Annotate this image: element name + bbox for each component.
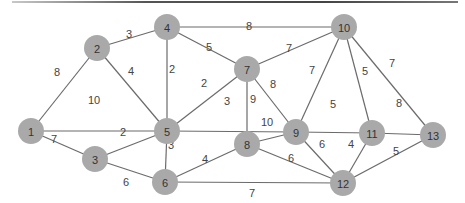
node-4: 4 (154, 14, 180, 40)
edge-1-2 (31, 48, 97, 131)
node-label: 11 (366, 128, 377, 140)
node-1: 1 (18, 118, 44, 144)
node-label: 9 (293, 127, 299, 139)
edge-weight-3-6: 6 (123, 176, 129, 188)
edge-weight-10-13: 7 (389, 57, 395, 69)
edge-9-10 (296, 27, 344, 132)
edge-weight-7-10: 7 (286, 42, 292, 54)
node-label: 12 (337, 178, 349, 190)
node-label: 2 (94, 43, 100, 55)
edge-2-5 (97, 48, 167, 131)
edge-weight-1-5: 10 (88, 94, 100, 106)
edge-weight-2-5: 4 (128, 65, 134, 77)
edge-weight-4-10: 8 (246, 20, 252, 32)
node-3: 3 (82, 146, 108, 172)
node-label: 3 (92, 154, 98, 166)
node-10: 10 (331, 14, 357, 40)
edge-weight-2-4: 3 (126, 28, 132, 40)
edge-8-12 (247, 144, 343, 183)
edge-7-10 (247, 27, 344, 69)
node-label: 7 (244, 64, 250, 76)
edge-weight-7-8: 9 (250, 93, 256, 105)
top-border-line (12, 1, 458, 3)
graph-diagram: 810734268522334778910675657845 123456789… (0, 0, 465, 203)
node-13: 13 (420, 122, 446, 148)
edge-weight-9-10: 7 (309, 64, 315, 76)
edge-weight-10-11: 5 (362, 65, 368, 77)
edge-weight-5-9: 3 (224, 95, 230, 107)
node-label: 10 (338, 22, 350, 34)
node-label: 6 (162, 177, 168, 189)
node-7: 7 (234, 56, 260, 82)
edge-weight-3-5: 2 (120, 126, 126, 138)
edge-weight-4-5: 2 (169, 63, 175, 75)
node-9: 9 (283, 119, 309, 145)
edge-weight-11-12: 4 (348, 138, 354, 150)
edge-weight-5-7: 2 (201, 77, 207, 89)
edge-weight-1-3: 7 (51, 133, 57, 145)
edge-weight-7-9: 8 (270, 78, 276, 90)
node-12: 12 (330, 170, 356, 196)
edge-5-9 (167, 131, 296, 132)
edge-10-11 (344, 27, 372, 133)
node-label: 4 (164, 22, 170, 34)
graph-canvas: 810734268522334778910675657845 123456789… (0, 0, 465, 203)
edge-weight-4-7: 5 (206, 41, 212, 53)
node-2: 2 (84, 35, 110, 61)
node-label: 5 (164, 126, 170, 138)
node-5: 5 (154, 118, 180, 144)
edge-6-12 (165, 182, 343, 183)
node-11: 11 (359, 120, 385, 146)
edge-weight-11-13: 8 (396, 97, 402, 109)
nodes-layer: 12345678910111213 (18, 14, 446, 196)
edge-weight-12-13: 5 (393, 145, 399, 157)
edge-weight-6-12: 7 (249, 187, 255, 199)
node-label: 13 (427, 130, 439, 142)
edge-10-13 (344, 27, 433, 135)
edge-weight-6-8: 4 (202, 153, 208, 165)
edge-weight-1-2: 8 (54, 66, 60, 78)
node-6: 6 (152, 169, 178, 195)
edge-weight-9-11: 5 (330, 98, 336, 110)
node-8: 8 (234, 131, 260, 157)
node-label: 1 (28, 126, 34, 138)
node-label: 8 (244, 139, 250, 151)
edge-weight-8-12: 6 (288, 152, 294, 164)
edge-weight-8-9: 10 (261, 116, 273, 128)
edge-weight-9-12: 6 (319, 138, 325, 150)
